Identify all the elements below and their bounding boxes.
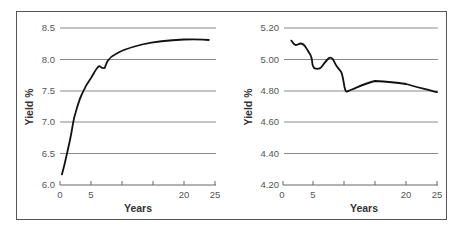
y-tick-label: 4.80 bbox=[261, 85, 280, 96]
left-y-tick-labels: 8.5 8.0 7.5 7.0 6.5 6.0 bbox=[42, 22, 55, 190]
y-tick-label: 4.40 bbox=[261, 148, 280, 159]
x-tick-label: 20 bbox=[179, 189, 190, 200]
x-tick-label: 25 bbox=[432, 189, 443, 200]
y-tick-label: 8.0 bbox=[42, 54, 55, 65]
right-y-tick-labels: 5.20 5.00 4.80 4.60 4.40 4.20 bbox=[261, 22, 280, 190]
x-tick-label: 0 bbox=[279, 189, 284, 200]
right-yield-curve bbox=[291, 41, 437, 93]
left-x-axis-title: Years bbox=[124, 202, 152, 214]
left-chart: 8.5 8.0 7.5 7.0 6.5 6.0 0 5 20 25 Years … bbox=[23, 22, 220, 214]
x-tick-label: 5 bbox=[88, 189, 93, 200]
y-tick-label: 7.0 bbox=[42, 116, 55, 127]
x-tick-label: 0 bbox=[57, 189, 62, 200]
y-tick-label: 4.60 bbox=[261, 116, 280, 127]
right-x-tick-labels: 0 5 20 25 bbox=[279, 189, 442, 200]
x-tick-label: 25 bbox=[210, 189, 221, 200]
left-x-tick-labels: 0 5 20 25 bbox=[57, 189, 220, 200]
right-gridlines bbox=[284, 28, 438, 154]
y-tick-label: 6.5 bbox=[42, 148, 55, 159]
right-x-axis bbox=[283, 181, 438, 185]
left-x-axis bbox=[60, 181, 216, 185]
y-tick-label: 8.5 bbox=[42, 22, 55, 33]
right-x-axis-title: Years bbox=[350, 202, 378, 214]
y-tick-label: 5.20 bbox=[261, 22, 280, 33]
right-chart: 5.20 5.00 4.80 4.60 4.40 4.20 0 5 20 25 … bbox=[242, 22, 442, 214]
y-tick-label: 4.20 bbox=[261, 179, 280, 190]
charts-canvas: 8.5 8.0 7.5 7.0 6.5 6.0 0 5 20 25 Years … bbox=[0, 0, 463, 231]
left-y-axis-title: Yield % bbox=[23, 88, 35, 126]
y-tick-label: 6.0 bbox=[42, 179, 55, 190]
x-tick-label: 5 bbox=[310, 189, 315, 200]
y-tick-label: 5.00 bbox=[261, 54, 280, 65]
x-tick-label: 20 bbox=[401, 189, 412, 200]
y-tick-label: 7.5 bbox=[42, 85, 55, 96]
right-y-axis-title: Yield % bbox=[242, 88, 254, 126]
